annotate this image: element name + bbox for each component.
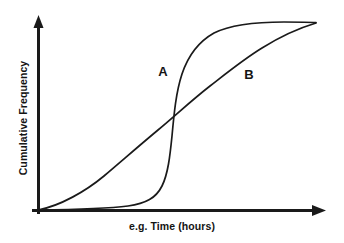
curve-series-b bbox=[38, 23, 316, 210]
y-axis-title: Cumulative Frequency bbox=[17, 38, 29, 198]
series-label-b: B bbox=[244, 67, 253, 82]
chart-plot-area: A B bbox=[0, 0, 344, 243]
series-label-a: A bbox=[158, 64, 168, 79]
x-axis-title: e.g. Time (hours) bbox=[0, 220, 344, 232]
curve-series-a bbox=[38, 22, 316, 210]
x-axis-arrowhead-icon bbox=[312, 205, 326, 216]
cumulative-frequency-chart: A B e.g. Time (hours) Cumulative Frequen… bbox=[0, 0, 344, 243]
y-axis-arrowhead-icon bbox=[34, 15, 44, 28]
